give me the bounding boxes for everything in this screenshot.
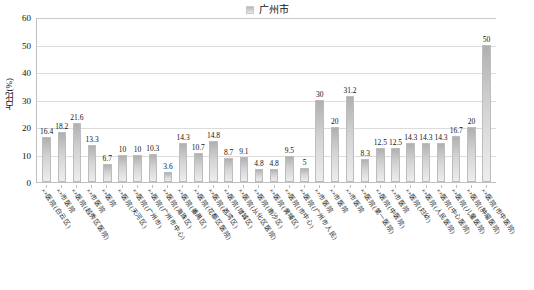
- bar[interactable]: [164, 172, 172, 182]
- x-label-slot: ××医院(从化区医院): [236, 185, 251, 285]
- bar-slot[interactable]: 6.7: [100, 17, 115, 182]
- bar-value-label: 13.3: [86, 136, 99, 144]
- bar-slot[interactable]: 13.3: [85, 17, 100, 182]
- x-label-slot: ××医院(花都区医院): [190, 185, 205, 285]
- x-label-slot: ××医院(黄埔区): [266, 185, 281, 285]
- bar-slot[interactable]: 5: [297, 17, 312, 182]
- bar[interactable]: [73, 123, 81, 182]
- x-label-slot: ××医院(人民医院): [418, 185, 433, 285]
- bar-value-label: 20: [331, 118, 339, 126]
- bar[interactable]: [255, 169, 263, 182]
- x-label-slot: ××医院(广州市): [129, 185, 144, 285]
- bar[interactable]: [224, 158, 232, 182]
- bar-slot[interactable]: 31.2: [342, 17, 357, 182]
- bar[interactable]: [118, 155, 126, 183]
- bar-slot[interactable]: 50: [479, 17, 494, 182]
- bar-slot[interactable]: 30: [312, 17, 327, 182]
- bar-value-label: 50: [483, 36, 491, 44]
- x-label-slot: ××医院(妇幼): [403, 185, 418, 285]
- x-label-slot: ××医院(儿童医院): [448, 185, 463, 285]
- bar-slot[interactable]: 4.8: [251, 17, 266, 182]
- bar[interactable]: [346, 96, 354, 182]
- bar[interactable]: [133, 155, 141, 183]
- x-label-slot: ××市医院: [84, 185, 99, 285]
- bar-slot[interactable]: 12.5: [388, 17, 403, 182]
- bar-slot[interactable]: 18.2: [54, 17, 69, 182]
- bar-slot[interactable]: 10: [115, 17, 130, 182]
- bar[interactable]: [422, 143, 430, 182]
- y-axis-tick-20: 20: [22, 123, 31, 133]
- bar-value-label: 10.7: [192, 144, 205, 152]
- bar[interactable]: [270, 169, 278, 182]
- x-label-slot: ××医院(白云区): [38, 185, 53, 285]
- bar[interactable]: [376, 148, 384, 182]
- bar-value-label: 9.1: [239, 148, 248, 156]
- bar[interactable]: [361, 159, 369, 182]
- bar-slot[interactable]: 8.7: [221, 17, 236, 182]
- bar[interactable]: [209, 141, 217, 182]
- bar-slot[interactable]: 16.7: [449, 17, 464, 182]
- x-label-slot: ××医院(中医院): [372, 185, 387, 285]
- bar-slot[interactable]: 3.6: [160, 17, 175, 182]
- x-label-slot: ××医院(广州市人民): [296, 185, 311, 285]
- bar[interactable]: [179, 143, 187, 182]
- bar[interactable]: [58, 132, 66, 182]
- bar[interactable]: [331, 127, 339, 182]
- bar[interactable]: [452, 136, 460, 182]
- bar-slot[interactable]: 4.8: [267, 17, 282, 182]
- bar-value-label: 16.7: [450, 127, 463, 135]
- bar[interactable]: [240, 157, 248, 182]
- bar[interactable]: [406, 143, 414, 182]
- y-axis-tick-labels: 6050403020100: [12, 18, 34, 183]
- bar-slot[interactable]: 14.8: [206, 17, 221, 182]
- bar-value-label: 9.5: [285, 147, 294, 155]
- x-label-slot: ××医院(越秀区医院): [68, 185, 83, 285]
- bar[interactable]: [285, 156, 293, 182]
- bar-value-label: 4.8: [269, 160, 278, 168]
- bar-value-label: 3.6: [163, 163, 172, 171]
- bar-chart-figure: 广州市 占比(%) 6050403020100 16.418.221.613.3…: [0, 0, 534, 290]
- bar-slot[interactable]: 14.3: [433, 17, 448, 182]
- y-axis-tick-60: 60: [22, 13, 31, 23]
- bar[interactable]: [194, 153, 202, 182]
- bar-value-label: 14.3: [434, 134, 447, 142]
- plot-area-wrapper: 占比(%) 6050403020100 16.418.221.613.36.71…: [0, 18, 534, 290]
- bar-slot[interactable]: 9.1: [236, 17, 251, 182]
- bar[interactable]: [315, 100, 323, 183]
- x-label-slot: ××医院(番禺区): [175, 185, 190, 285]
- x-label-slot: ××医院(天河区): [114, 185, 129, 285]
- bar-value-label: 14.8: [207, 132, 220, 140]
- bar-slot[interactable]: 14.3: [403, 17, 418, 182]
- bar-slot[interactable]: 10.7: [191, 17, 206, 182]
- bar[interactable]: [149, 154, 157, 182]
- bar-slot[interactable]: 10: [130, 17, 145, 182]
- bar-slot[interactable]: 14.3: [418, 17, 433, 182]
- bar-value-label: 6.7: [103, 155, 112, 163]
- bar-slot[interactable]: 8.3: [358, 17, 373, 182]
- bar-slot[interactable]: 20: [327, 17, 342, 182]
- y-axis-tick-40: 40: [22, 68, 31, 78]
- bar[interactable]: [467, 127, 475, 182]
- x-label-slot: ××市医院: [327, 185, 342, 285]
- bar-slot[interactable]: 12.5: [373, 17, 388, 182]
- x-label-slot: ××市医院: [388, 185, 403, 285]
- bar[interactable]: [300, 168, 308, 182]
- bar-value-label: 8.7: [224, 149, 233, 157]
- bar-slot[interactable]: 14.3: [176, 17, 191, 182]
- bar[interactable]: [42, 137, 50, 182]
- bar-slot[interactable]: 9.5: [282, 17, 297, 182]
- bar-slot[interactable]: 16.4: [39, 17, 54, 182]
- bar-value-label: 10.3: [146, 145, 159, 153]
- bar-slot[interactable]: 20: [464, 17, 479, 182]
- bar-value-label: 14.3: [177, 134, 190, 142]
- bar[interactable]: [437, 143, 445, 182]
- bar[interactable]: [482, 45, 490, 183]
- chart-legend: 广州市: [0, 2, 534, 18]
- bar[interactable]: [391, 148, 399, 182]
- bar[interactable]: [88, 145, 96, 182]
- bar[interactable]: [103, 164, 111, 182]
- legend-swatch-icon: [246, 6, 254, 14]
- bar-slot[interactable]: 21.6: [69, 17, 84, 182]
- bar-value-label: 4.8: [254, 160, 263, 168]
- bar-slot[interactable]: 10.3: [145, 17, 160, 182]
